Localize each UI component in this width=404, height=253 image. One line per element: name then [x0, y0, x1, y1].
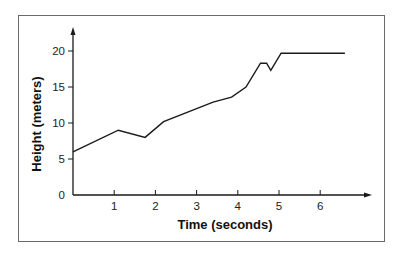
x-tick-label: 4 [235, 200, 242, 212]
x-ticks: 123456 [111, 190, 323, 212]
y-tick-label: 0 [59, 189, 65, 201]
x-tick-label: 2 [152, 200, 158, 212]
x-axis-title: Time (seconds) [177, 217, 272, 232]
y-axis [71, 27, 76, 195]
x-tick-label: 6 [317, 200, 323, 212]
y-tick-label: 20 [52, 45, 65, 57]
y-tick-label: 15 [52, 81, 65, 93]
line-chart: 05101520 123456 Time (seconds) Height (m… [0, 0, 404, 253]
x-tick-label: 3 [193, 200, 199, 212]
x-axis [73, 193, 372, 198]
y-axis-arrow-icon [71, 27, 76, 35]
height-series-line [73, 53, 345, 152]
x-axis-arrow-icon [364, 193, 372, 198]
x-tick-label: 1 [111, 200, 117, 212]
y-ticks: 05101520 [52, 45, 73, 201]
y-tick-label: 10 [52, 117, 65, 129]
y-tick-label: 5 [59, 153, 65, 165]
x-tick-label: 5 [276, 200, 282, 212]
y-axis-title: Height (meters) [29, 76, 44, 171]
